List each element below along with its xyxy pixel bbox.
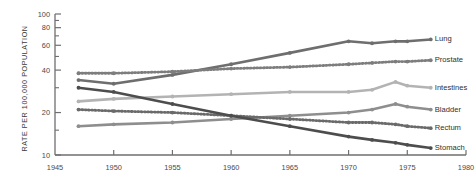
x-tick-label: 1945: [35, 163, 75, 172]
series-label-prostate: Prostate: [435, 55, 463, 64]
series-point-stomach: [171, 102, 175, 106]
series-point-bladder: [77, 124, 81, 128]
series-point-bladder: [370, 108, 374, 112]
series-point-intestines: [347, 90, 351, 94]
series-point-stomach: [429, 146, 433, 150]
series-label-lung: Lung: [435, 34, 452, 43]
x-tick-label: 1975: [387, 163, 427, 172]
series-point-rectum: [394, 122, 398, 126]
series-point-rectum: [171, 111, 175, 115]
y-tick-label: 80: [18, 23, 50, 32]
series-point-intestines: [112, 97, 116, 101]
series-point-prostate: [77, 71, 81, 75]
x-tick-label: 1960: [211, 163, 251, 172]
plot-area: [0, 0, 476, 181]
series-point-rectum: [288, 117, 292, 121]
series-point-prostate: [347, 62, 351, 66]
series-line-intestines: [78, 82, 430, 102]
series-point-bladder: [288, 114, 292, 118]
x-tick-label: 1955: [152, 163, 192, 172]
series-point-intestines: [429, 86, 433, 90]
series-label-bladder: Bladder: [435, 105, 461, 114]
series-point-bladder: [347, 111, 351, 115]
series-point-lung: [405, 39, 409, 43]
series-point-stomach: [394, 141, 398, 145]
series-point-bladder: [429, 108, 433, 112]
series-point-prostate: [112, 71, 116, 75]
series-point-prostate: [429, 58, 433, 62]
series-point-rectum: [429, 126, 433, 130]
series-point-rectum: [405, 124, 409, 128]
y-tick-label: 100: [18, 10, 50, 19]
series-point-stomach: [112, 90, 116, 94]
series-point-stomach: [347, 135, 351, 139]
x-tick-label: 1980: [446, 163, 476, 172]
series-point-rectum: [370, 121, 374, 125]
y-tick-label: 20: [18, 108, 50, 117]
series-point-intestines: [288, 90, 292, 94]
series-label-rectum: Rectum: [435, 123, 461, 132]
series-point-intestines: [77, 99, 81, 103]
series-point-prostate: [288, 65, 292, 69]
series-point-bladder: [405, 105, 409, 109]
series-point-intestines: [229, 92, 233, 96]
series-point-intestines: [405, 84, 409, 88]
series-point-intestines: [370, 88, 374, 92]
series-line-prostate: [78, 60, 430, 73]
series-label-intestines: Intestines: [435, 83, 468, 92]
series-point-bladder: [171, 121, 175, 125]
series-point-lung: [347, 39, 351, 43]
y-tick-label: 60: [18, 41, 50, 50]
series-point-lung: [394, 39, 398, 43]
series-point-prostate: [394, 60, 398, 64]
series-group: [77, 38, 433, 150]
x-tick-label: 1965: [270, 163, 310, 172]
series-point-prostate: [370, 61, 374, 65]
series-point-lung: [77, 78, 81, 82]
series-point-stomach: [370, 138, 374, 142]
cancer-mortality-rate-chart: RATE PER 100,000 POPULATION 102040608010…: [0, 0, 476, 181]
series-point-prostate: [229, 67, 233, 71]
x-tick-label: 1970: [329, 163, 369, 172]
series-point-stomach: [229, 114, 233, 118]
series-point-lung: [288, 51, 292, 55]
series-point-intestines: [171, 95, 175, 99]
series-point-stomach: [77, 86, 81, 90]
series-point-prostate: [405, 60, 409, 64]
series-point-stomach: [288, 124, 292, 128]
y-tick-label: 10: [18, 151, 50, 160]
series-point-lung: [429, 38, 433, 42]
series-point-lung: [112, 82, 116, 86]
series-point-rectum: [112, 109, 116, 113]
series-point-bladder: [112, 122, 116, 126]
series-label-stomach: Stomach: [435, 143, 465, 152]
series-point-lung: [370, 41, 374, 45]
series-point-bladder: [229, 117, 233, 121]
y-tick-label: 40: [18, 66, 50, 75]
series-point-lung: [229, 62, 233, 66]
x-tick-label: 1950: [94, 163, 134, 172]
series-point-intestines: [394, 80, 398, 84]
series-point-bladder: [394, 102, 398, 106]
series-point-rectum: [347, 121, 351, 125]
series-point-stomach: [405, 143, 409, 147]
series-point-prostate: [171, 70, 175, 74]
series-point-rectum: [77, 108, 81, 112]
